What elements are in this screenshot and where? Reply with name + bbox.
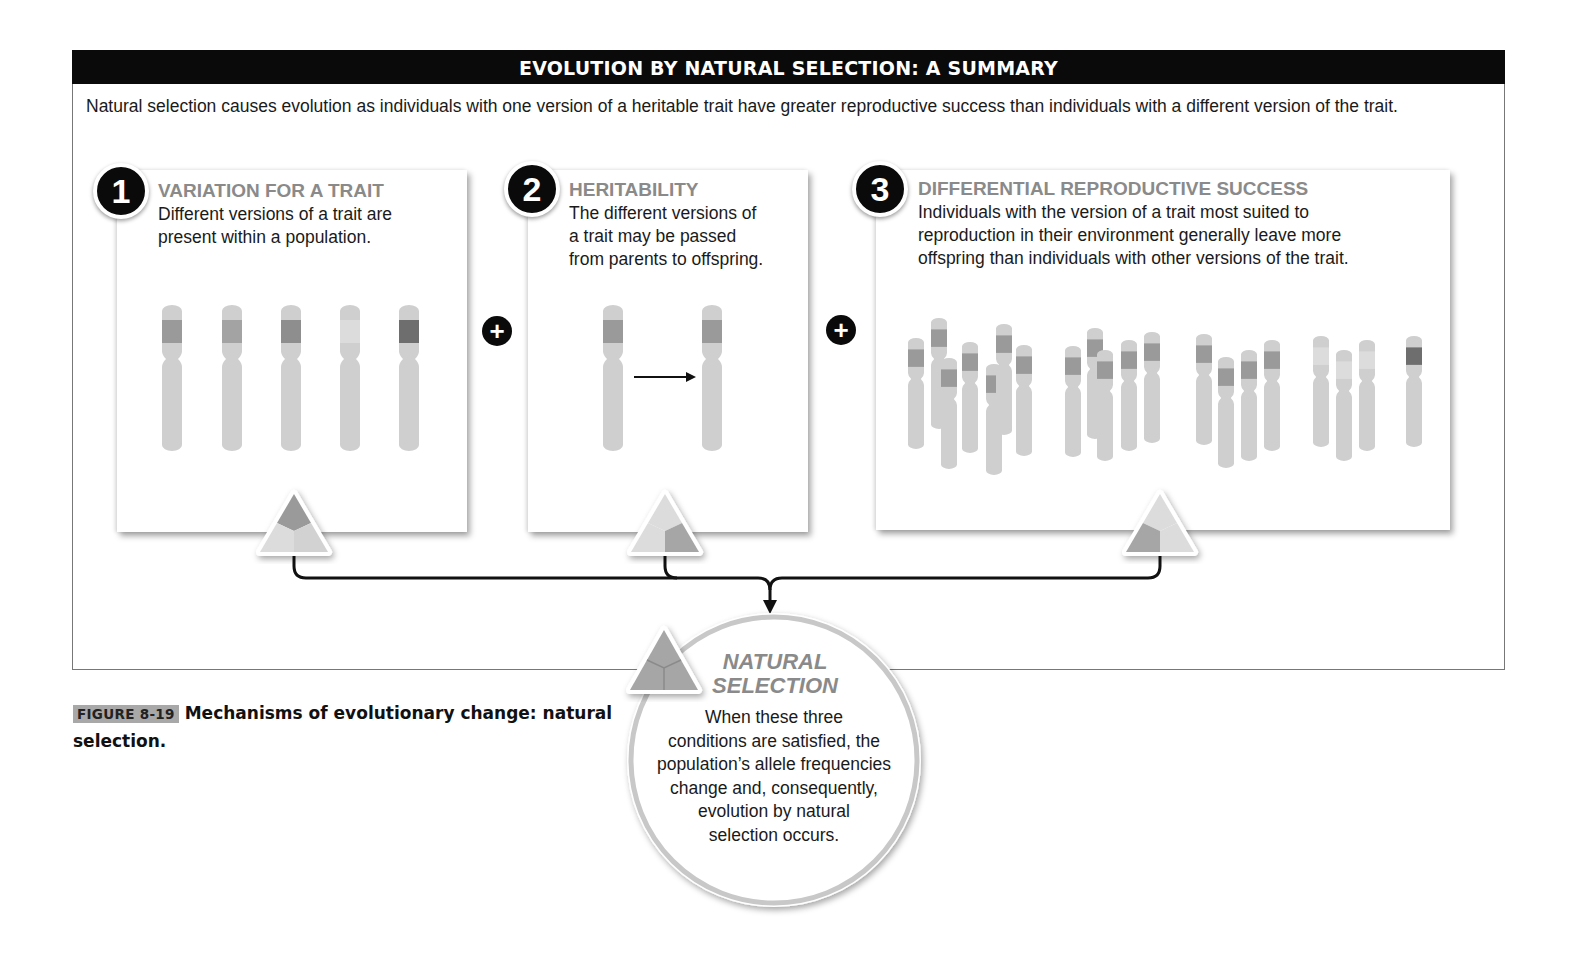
- step-badge-2: 2: [504, 161, 560, 217]
- desc-line: conditions are satisfied, the: [640, 730, 908, 754]
- figure-label: FIGURE 8-19: [73, 705, 179, 723]
- natural-selection-title: NATURAL SELECTION: [690, 650, 860, 698]
- desc-line: Individuals with the version of a trait …: [918, 201, 1349, 224]
- desc-line: from parents to offspring.: [569, 248, 763, 271]
- desc-line: reproduction in their environment genera…: [918, 224, 1349, 247]
- triangle-icon-1: [260, 494, 328, 552]
- natural-selection-description: When these three conditions are satisfie…: [640, 706, 908, 847]
- desc-line: evolution by natural: [640, 800, 908, 824]
- chromosome-group-heritability: [603, 305, 722, 451]
- panel-title-differential-success: DIFFERENTIAL REPRODUCTIVE SUCCESS: [918, 178, 1308, 200]
- desc-line: change and, consequently,: [640, 777, 908, 801]
- desc-line: The different versions of: [569, 202, 763, 225]
- desc-line: When these three: [640, 706, 908, 730]
- desc-line: offspring than individuals with other ve…: [918, 247, 1349, 270]
- desc-line: present within a population.: [158, 226, 392, 249]
- title-line: NATURAL: [690, 650, 860, 674]
- chromosome-group-population: [908, 318, 1422, 475]
- panel-desc-differential-success: Individuals with the version of a trait …: [918, 201, 1349, 270]
- desc-line: population’s allele frequencies: [640, 753, 908, 777]
- panel-title-heritability: HERITABILITY: [569, 179, 698, 201]
- triangle-icon-2: [631, 494, 699, 552]
- step-badge-1: 1: [93, 163, 149, 219]
- triangle-icon-3: [1126, 494, 1194, 552]
- panel-desc-heritability: The different versions of a trait may be…: [569, 202, 763, 271]
- step-badge-3: 3: [852, 161, 908, 217]
- panel-title-variation: VARIATION FOR A TRAIT: [158, 180, 384, 202]
- desc-line: a trait may be passed: [569, 225, 763, 248]
- title-line: SELECTION: [690, 674, 860, 698]
- plus-icon: +: [482, 316, 512, 346]
- arrow-down-icon: [763, 600, 777, 614]
- figure-caption: FIGURE 8-19Mechanisms of evolutionary ch…: [73, 700, 613, 755]
- desc-line: selection occurs.: [640, 824, 908, 848]
- chromosome-group-variation: [162, 305, 419, 451]
- desc-line: Different versions of a trait are: [158, 203, 392, 226]
- plus-icon: +: [826, 315, 856, 345]
- panel-desc-variation: Different versions of a trait are presen…: [158, 203, 392, 249]
- connector-brackets: [294, 553, 1160, 604]
